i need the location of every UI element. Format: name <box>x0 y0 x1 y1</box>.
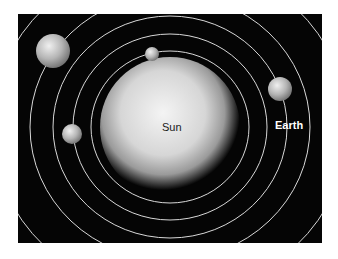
sun-label: Sun <box>162 121 182 133</box>
solar-system-diagram: Sun Earth <box>18 14 322 243</box>
earth-label: Earth <box>275 119 303 131</box>
planet-mars <box>36 34 70 68</box>
planet-venus <box>62 124 82 144</box>
planet-earth <box>268 77 292 101</box>
planet-mercury <box>145 47 159 61</box>
